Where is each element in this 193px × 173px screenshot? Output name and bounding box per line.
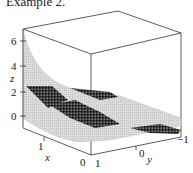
z-tick-6: 6	[11, 35, 17, 47]
x-tick-1: 1	[38, 140, 44, 152]
surface-plot: 6 4 z 2 0 1 x 0 1 0 y −1	[0, 0, 193, 173]
y-tick-1: 1	[95, 157, 101, 169]
z-axis-label: z	[9, 72, 15, 84]
x-axis-label: x	[44, 151, 50, 163]
y-tick-0: 0	[139, 147, 145, 159]
x-tick-0: 0	[80, 156, 86, 168]
z-tick-0: 0	[11, 110, 17, 122]
y-tick-neg1: −1	[177, 133, 189, 145]
z-tick-4: 4	[11, 60, 17, 72]
z-tick-2: 2	[11, 86, 17, 98]
y-axis-label: y	[146, 153, 152, 165]
